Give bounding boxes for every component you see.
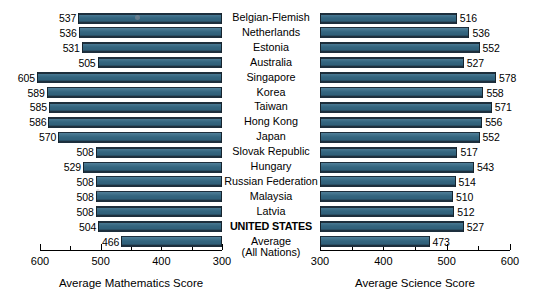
math-value-label: 586 [0, 115, 46, 130]
science-value-label: 512 [457, 205, 474, 220]
axis-tick-label: 400 [374, 255, 392, 267]
category-label: Singapore [222, 72, 320, 84]
science-bar [320, 27, 469, 38]
math-value-label: 585 [0, 100, 47, 115]
category-label-text: Australia [250, 56, 292, 68]
math-value-label: 529 [0, 160, 81, 175]
math-value-label: 589 [0, 86, 45, 101]
axis-tick-label: 600 [501, 255, 519, 267]
science-value-label: 578 [499, 71, 516, 86]
category-label-text: Belgian-Flemish [232, 11, 309, 23]
category-label-text: Russian Federation [224, 175, 318, 187]
category-label-text: Korea [257, 86, 286, 98]
science-value-label: 514 [459, 175, 476, 190]
scan-speck [135, 15, 140, 20]
math-bar [47, 87, 222, 98]
science-value-label: 527 [467, 220, 484, 235]
science-value-label: 536 [472, 26, 489, 41]
category-label-text: Hong Kong [244, 115, 298, 127]
science-axis-title: Average Science Score [355, 277, 475, 289]
category-label-text: Malaysia [250, 190, 293, 202]
science-bar [320, 191, 453, 202]
math-bar [121, 236, 222, 247]
science-bar [320, 132, 480, 143]
category-label-text: Estonia [253, 41, 289, 53]
math-bar [98, 57, 222, 68]
math-value-label: 508 [0, 205, 94, 220]
category-label-text: Hungary [251, 160, 292, 172]
science-value-label: 552 [483, 41, 500, 56]
category-sublabel-text: (All Nations) [222, 247, 320, 259]
category-label-text: Taiwan [254, 100, 288, 112]
math-bar [83, 162, 222, 173]
axis-tick-label: 400 [152, 255, 170, 267]
science-value-label: 552 [483, 130, 500, 145]
science-value-label: 527 [467, 56, 484, 71]
category-label: Russian Federation [222, 176, 320, 188]
category-label: Australia [222, 57, 320, 69]
science-value-label: 510 [456, 190, 473, 205]
science-bar [320, 236, 430, 247]
science-bar [320, 117, 482, 128]
mathematics-axis-line [40, 250, 222, 251]
category-label: Hong Kong [222, 116, 320, 128]
math-value-label: 536 [0, 26, 77, 41]
scan-speck [96, 189, 100, 192]
math-bar [96, 206, 222, 217]
math-value-label: 508 [0, 175, 94, 190]
math-value-label: 466 [0, 235, 119, 250]
science-bar [320, 221, 464, 232]
science-value-label: 543 [477, 160, 494, 175]
category-label: Slovak Republic [222, 146, 320, 158]
science-bar [320, 162, 474, 173]
category-label-column: Belgian-FlemishNetherlandsEstoniaAustral… [222, 11, 320, 250]
math-value-label: 570 [0, 130, 56, 145]
category-label: Belgian-Flemish [222, 12, 320, 24]
mathematics-axis-title: Average Mathematics Score [59, 277, 203, 289]
science-axis-line [320, 250, 510, 251]
math-value-label: 531 [0, 41, 80, 56]
category-label-text: Netherlands [242, 26, 300, 38]
science-bar [320, 57, 464, 68]
back-to-back-bar-chart: 600500400300 Average Mathematics Score 5… [0, 0, 536, 305]
science-value-label: 473 [433, 235, 450, 250]
science-bar [320, 102, 492, 113]
math-bar [96, 147, 222, 158]
math-bar [96, 191, 222, 202]
science-value-label: 558 [486, 86, 503, 101]
category-label-text: Slovak Republic [232, 145, 309, 157]
category-label: Japan [222, 131, 320, 143]
category-label: Latvia [222, 206, 320, 218]
math-bar [48, 117, 222, 128]
math-bar [79, 27, 222, 38]
math-bar [58, 132, 222, 143]
math-bar [49, 102, 222, 113]
math-bar [37, 72, 222, 83]
science-bar [320, 206, 454, 217]
axis-tick-label: 600 [31, 255, 49, 267]
math-value-label: 605 [0, 71, 35, 86]
category-label: Korea [222, 87, 320, 99]
category-label-text: Latvia [257, 205, 286, 217]
science-value-label: 556 [485, 115, 502, 130]
category-label: Estonia [222, 42, 320, 54]
math-bar [98, 221, 222, 232]
category-label-text: UNITED STATES [230, 220, 312, 232]
category-label: Taiwan [222, 101, 320, 113]
science-value-label: 516 [460, 11, 477, 26]
math-value-label: 505 [0, 56, 96, 71]
science-bar [320, 147, 457, 158]
science-bar [320, 13, 457, 24]
math-value-label: 537 [0, 11, 76, 26]
math-bar [78, 13, 222, 24]
axis-tick-label: 500 [91, 255, 109, 267]
science-value-label: 571 [495, 100, 512, 115]
category-label: Malaysia [222, 191, 320, 203]
math-value-label: 508 [0, 145, 94, 160]
science-bar [320, 72, 496, 83]
category-label: Hungary [222, 161, 320, 173]
category-label: Netherlands [222, 27, 320, 39]
science-value-label: 517 [460, 145, 477, 160]
math-bar [82, 42, 222, 53]
category-label-text: Singapore [246, 71, 295, 83]
